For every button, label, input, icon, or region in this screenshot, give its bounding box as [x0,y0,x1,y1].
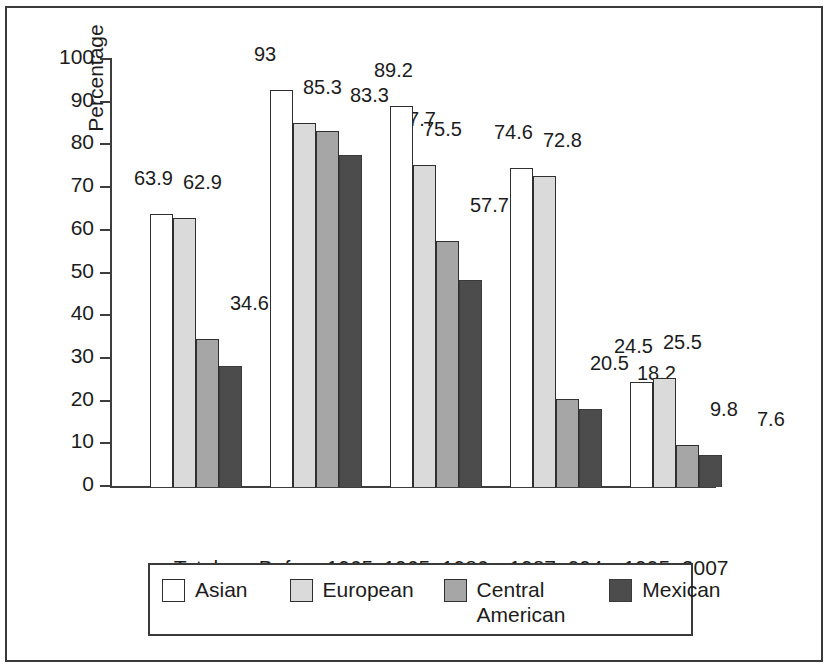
legend-item[interactable]: Mexican [609,577,720,602]
y-axis-tick-label: 100 [59,47,94,67]
bar[interactable] [533,176,556,487]
bar-chart-figure: Percentage 1009080706050403020100 Total6… [0,0,830,670]
y-axis-tick: 0 [100,485,112,487]
bar[interactable] [339,155,362,487]
bar[interactable] [436,241,459,487]
bar[interactable] [510,168,533,487]
bar-group-bars [630,60,722,487]
bar-group-bars [150,60,242,487]
bar[interactable] [556,399,579,487]
bar[interactable] [173,218,196,487]
y-axis-tick: 100 [100,58,112,60]
legend-label: Mexican [642,577,720,602]
bar[interactable] [293,123,316,487]
y-axis-tick-label: 70 [71,175,94,195]
y-axis-tick-label: 0 [82,474,94,494]
y-axis-tick: 30 [100,357,112,359]
bar-group: 89.275.557.748.4 [390,60,482,487]
y-axis-tick-label: 90 [71,90,94,110]
medium-gray-swatch [444,579,467,602]
y-axis-tick: 40 [100,314,112,316]
bar[interactable] [413,165,436,487]
bar[interactable] [630,382,653,487]
y-axis-tick: 90 [100,101,112,103]
bar[interactable] [459,280,482,487]
y-axis-tick: 50 [100,272,112,274]
white-swatch [162,579,185,602]
y-axis-tick: 70 [100,186,112,188]
bar-value-label: 7.6 [757,409,785,429]
bar[interactable] [699,455,722,487]
bar[interactable] [150,214,173,487]
bar-group: 74.672.820.518.2 [510,60,602,487]
y-axis-tick-label: 80 [71,132,94,152]
bar-group: 63.962.934.628.3 [150,60,242,487]
bar[interactable] [219,366,242,487]
light-gray-swatch [290,579,313,602]
bar-group: 9385.383.377.7 [270,60,362,487]
y-axis-tick-label: 30 [71,346,94,366]
y-axis-tick-label: 50 [71,261,94,281]
y-axis-tick-label: 10 [71,431,94,451]
y-axis-tick: 10 [100,442,112,444]
bar-group-bars [510,60,602,487]
bar[interactable] [653,378,676,487]
legend-label: Central American [477,577,566,627]
dark-gray-swatch [609,579,632,602]
legend-item[interactable]: Asian [162,577,248,602]
legend-label: European [323,577,414,602]
bar[interactable] [579,409,602,487]
bar[interactable] [676,445,699,487]
bar-group-bars [390,60,482,487]
chart-legend: AsianEuropeanCentral AmericanMexican [148,563,693,636]
bar[interactable] [270,90,293,487]
y-axis-tick-label: 40 [71,303,94,323]
bar[interactable] [390,106,413,487]
y-axis-tick: 20 [100,400,112,402]
bar-group-bars [270,60,362,487]
legend-items: AsianEuropeanCentral AmericanMexican [162,577,721,627]
y-axis-tick-label: 60 [71,218,94,238]
legend-item[interactable]: European [290,577,414,602]
bar-group: 24.525.59.87.6 [630,60,722,487]
y-axis-tick-label: 20 [71,389,94,409]
legend-label: Asian [195,577,248,602]
plot-area: Percentage 1009080706050403020100 Total6… [112,60,712,487]
legend-item[interactable]: Central American [444,577,566,627]
y-axis-tick: 80 [100,143,112,145]
y-axis-tick: 60 [100,229,112,231]
bar[interactable] [196,339,219,487]
bar[interactable] [316,131,339,487]
